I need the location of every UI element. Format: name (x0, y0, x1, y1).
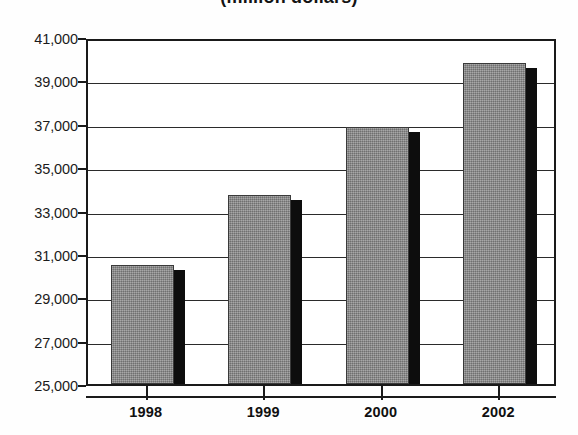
x-axis-tick-mark (498, 386, 500, 400)
bar-body (111, 265, 174, 384)
y-axis-tick-label: 35,000 (6, 161, 78, 177)
y-axis-tick-label: 41,000 (6, 31, 78, 47)
y-axis-tick-label: 25,000 (6, 378, 78, 394)
x-axis-line (86, 396, 556, 398)
y-axis-tick-mark (78, 385, 86, 387)
x-axis-tick-mark (263, 386, 265, 400)
bar (463, 63, 537, 384)
x-axis-tick-mark (381, 386, 383, 400)
y-axis-tick-mark (78, 168, 86, 170)
bar-shadow (526, 68, 537, 384)
y-axis-tick-mark (78, 255, 86, 257)
y-axis-tick-mark (78, 125, 86, 127)
plot-area (86, 39, 556, 386)
x-axis-tick-mark (146, 386, 148, 400)
chart-title: (million dollars) (0, 0, 578, 7)
y-axis-tick-label: 33,000 (6, 205, 78, 221)
x-axis-tick-label: 2002 (482, 404, 515, 420)
bar (111, 265, 185, 384)
y-axis-tick-label: 31,000 (6, 248, 78, 264)
bar (346, 127, 420, 384)
bar-body (463, 63, 526, 384)
x-axis-tick-label: 1999 (247, 404, 280, 420)
bar-body (346, 127, 409, 384)
y-axis-tick-mark (78, 38, 86, 40)
y-axis-tick-label: 27,000 (6, 335, 78, 351)
bar-chart-figure: (million dollars) 41,00039,00037,00035,0… (0, 0, 578, 435)
bar-shadow (291, 200, 302, 384)
bar-body (228, 195, 291, 384)
y-axis: 41,00039,00037,00035,00033,00031,00029,0… (0, 0, 78, 435)
bar (228, 195, 302, 384)
x-axis-tick-label: 1998 (129, 404, 162, 420)
y-axis-tick-label: 39,000 (6, 74, 78, 90)
y-axis-tick-mark (78, 298, 86, 300)
y-axis-tick-mark (78, 81, 86, 83)
bar-shadow (174, 270, 185, 384)
y-axis-tick-label: 29,000 (6, 291, 78, 307)
y-axis-tick-mark (78, 212, 86, 214)
y-axis-tick-mark (78, 342, 86, 344)
bar-shadow (409, 132, 420, 384)
y-axis-tick-label: 37,000 (6, 118, 78, 134)
x-axis-tick-label: 2000 (364, 404, 397, 420)
